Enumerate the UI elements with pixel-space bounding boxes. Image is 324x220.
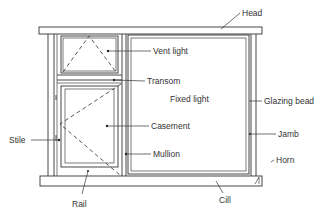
left-jamb xyxy=(48,34,57,176)
label-glazing-bead: Glazing bead xyxy=(249,96,314,106)
label-jamb: Jamb xyxy=(249,129,299,139)
svg-text:Rail: Rail xyxy=(72,199,87,209)
transom xyxy=(57,75,122,83)
label-vent-light: Vent light xyxy=(107,46,189,56)
cill xyxy=(40,176,262,186)
label-stile: Stile xyxy=(9,135,60,145)
svg-text:Stile: Stile xyxy=(9,135,26,145)
label-head: Head xyxy=(221,8,263,29)
svg-text:Mullion: Mullion xyxy=(153,149,180,159)
casement xyxy=(60,84,121,176)
svg-text:Transom: Transom xyxy=(147,76,180,86)
label-cill: Cill xyxy=(216,181,231,205)
fixed-light xyxy=(128,35,249,174)
svg-text:Glazing bead: Glazing bead xyxy=(264,96,314,106)
svg-text:Fixed light: Fixed light xyxy=(170,94,209,104)
label-fixed-light: Fixed light xyxy=(170,94,209,104)
label-transom: Transom xyxy=(113,76,180,86)
window-diagram: Head Vent light Transom Fixed light Glaz… xyxy=(0,0,324,220)
head xyxy=(39,27,262,34)
label-horn: Horn xyxy=(271,155,295,165)
svg-text:Horn: Horn xyxy=(276,155,295,165)
svg-text:Casement: Casement xyxy=(151,121,190,131)
right-jamb xyxy=(251,34,256,176)
svg-text:Head: Head xyxy=(242,8,263,18)
label-casement: Casement xyxy=(106,121,191,131)
svg-text:Cill: Cill xyxy=(219,195,231,205)
vent-light xyxy=(61,36,118,73)
svg-text:Jamb: Jamb xyxy=(278,129,299,139)
label-mullion: Mullion xyxy=(125,149,180,159)
horn-mark xyxy=(255,177,259,184)
svg-text:Vent light: Vent light xyxy=(153,46,189,56)
